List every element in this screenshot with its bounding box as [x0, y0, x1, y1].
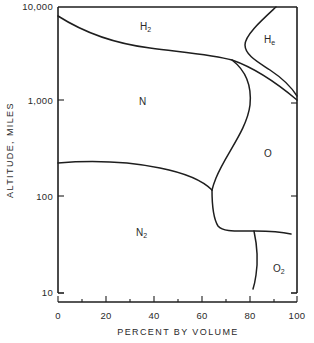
- region-label-n2: N2: [136, 227, 147, 239]
- y-label-10: 10: [42, 287, 53, 298]
- atmosphere-composition-diagram: 10,000 1,000 100 10 0 20 40 60 80 100 PE…: [0, 0, 314, 343]
- y-tick-labels: 10,000 1,000 100 10: [22, 1, 53, 298]
- boundary-o-o2: [253, 231, 257, 289]
- region-label-o: O: [264, 148, 272, 159]
- boundary-curves: [58, 7, 297, 289]
- boundary-he: [245, 7, 297, 96]
- diagram-canvas: 10,000 1,000 100 10 0 20 40 60 80 100 PE…: [0, 0, 314, 343]
- x-tick-labels: 0 20 40 60 80 100: [55, 310, 305, 321]
- x-label-60: 60: [196, 310, 207, 321]
- x-label-0: 0: [55, 310, 61, 321]
- x-ticks: [58, 296, 297, 302]
- x-axis-title: PERCENT BY VOLUME: [117, 327, 239, 337]
- x-label-40: 40: [148, 310, 159, 321]
- y-axis-title: ALTITUDE, MILES: [5, 102, 15, 198]
- x-label-20: 20: [100, 310, 111, 321]
- region-label-o2: O2: [273, 263, 285, 275]
- boundary-n-n2: [58, 162, 212, 190]
- region-label-he: He: [264, 34, 275, 46]
- boundary-n2-o: [212, 190, 291, 234]
- x-label-80: 80: [244, 310, 255, 321]
- boundary-h2-n: [58, 16, 297, 100]
- boundary-n-o: [212, 60, 250, 190]
- y-label-10000: 10,000: [22, 1, 53, 12]
- y-ticks: [58, 100, 297, 196]
- y-label-100: 100: [36, 191, 53, 202]
- y-label-1000: 1,000: [28, 95, 53, 106]
- region-labels: H2 He N O N2 O2: [136, 21, 285, 275]
- region-label-n: N: [139, 96, 146, 107]
- x-label-100: 100: [289, 310, 306, 321]
- region-label-h2: H2: [140, 21, 151, 33]
